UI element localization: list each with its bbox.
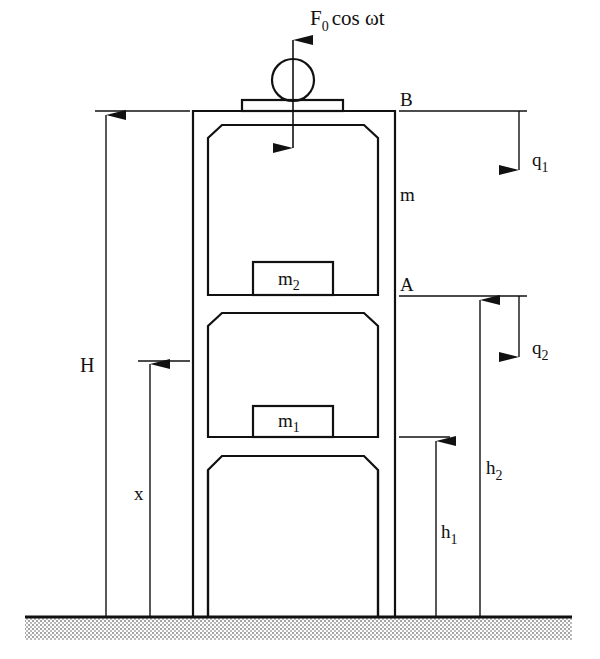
q1-label: q1 [532, 149, 549, 175]
building-vibration-diagram: F0cos ωt B A m m2 m1 q1 q2 H x h2 h1 [0, 0, 600, 659]
mass-1-label: m1 [278, 410, 300, 435]
outer-frame [193, 111, 395, 616]
compartment-top [208, 125, 378, 295]
point-B-label: B [400, 89, 413, 110]
mass-frame-label: m [400, 184, 415, 205]
mass-2-label: m2 [278, 268, 300, 293]
H-label: H [80, 354, 94, 376]
compartment-bottom [208, 456, 378, 616]
h1-label: h1 [441, 521, 458, 547]
ground-hatch [25, 618, 572, 640]
ground [25, 617, 572, 640]
x-label: x [134, 483, 144, 504]
building-frame [193, 59, 395, 616]
h2-label: h2 [486, 457, 503, 483]
q2-label: q2 [532, 337, 549, 363]
dimensions [95, 111, 527, 616]
force-label: F0cos ωt [310, 6, 385, 34]
point-A-label: A [400, 274, 414, 295]
compartment-middle [208, 313, 378, 437]
